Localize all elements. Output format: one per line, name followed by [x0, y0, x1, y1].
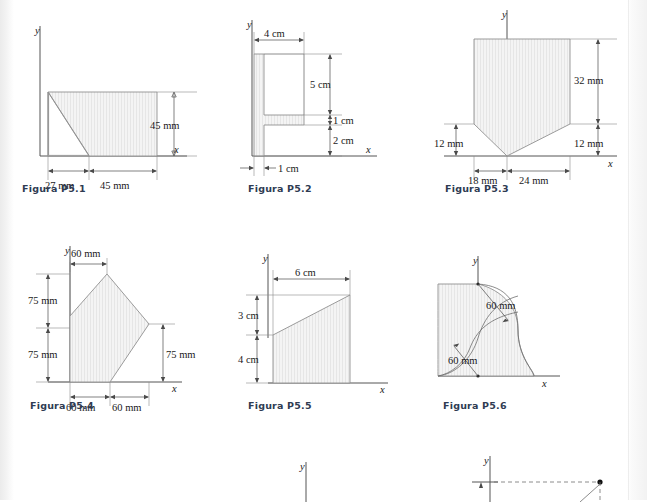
dim-arrow-down: [479, 482, 483, 488]
axis-y-label: y: [483, 455, 489, 466]
arrow-60tb: [102, 262, 107, 266]
arrow-2b: [328, 151, 332, 156]
arrow-60bla: [70, 395, 75, 399]
arrow-6b: [345, 277, 350, 281]
dim-60br-label: 60 mm: [112, 402, 141, 413]
dim-1cm-label: 1 cm: [333, 115, 354, 126]
caption-p5-6: Figura P5.6: [443, 400, 507, 411]
arrow-24b: [565, 169, 570, 173]
arrow-4b2: [255, 378, 259, 383]
axis-x-label: x: [171, 383, 177, 394]
arrow-24a: [507, 169, 512, 173]
dim-32-label: 32 mm: [574, 75, 603, 86]
caption-p5-1: Figura P5.1: [22, 183, 86, 194]
arrow-75ab: [46, 323, 50, 328]
caption-p5-5: Figura P5.5: [248, 400, 312, 411]
arrow-4b: [299, 38, 304, 42]
caption-p5-4: Figura P5.4: [30, 400, 94, 411]
shape-body: [70, 274, 149, 382]
figure-p5-5: x y 6 cm 3 cm 4 cm: [240, 246, 420, 396]
dim-3cm-label: 3 cm: [238, 310, 259, 321]
arrow-75ba: [46, 328, 50, 333]
dim-right-label: 45 mm: [100, 180, 129, 191]
dim-5cm-label: 5 cm: [310, 79, 331, 90]
axis-y-label: y: [246, 19, 252, 30]
dim-60top-label: 60 mm: [71, 248, 100, 259]
dim-12l-label: 12 mm: [434, 138, 463, 149]
arrow-5b: [328, 110, 332, 115]
axis-y-label: y: [64, 245, 70, 256]
figure-p5-2: x y 4 cm 5 cm 1 cm 2 cm: [232, 14, 412, 179]
arrow-18b: [502, 169, 507, 173]
dim-75a-label: 75 mm: [28, 295, 57, 306]
arrow-4a: [254, 38, 259, 42]
axis-x-label: x: [541, 378, 547, 389]
arrow-4a2: [255, 335, 259, 340]
dim-height-label: 45 mm: [150, 120, 179, 131]
figure-p5-6: x y 60 mm 60 mm: [430, 246, 610, 396]
dim-24-label: 24 mm: [519, 175, 548, 186]
arrow-60bra: [110, 395, 115, 399]
dim-stem-label: 1 cm: [278, 163, 299, 174]
arrow-12rb: [596, 151, 600, 156]
arrow-32a: [596, 39, 600, 44]
arrow-s1: [249, 166, 254, 170]
dim-4cm-label: 4 cm: [238, 354, 259, 365]
axis-x-label: x: [379, 384, 385, 395]
arrow-75ra: [161, 324, 165, 329]
dim-upper-60-label: 60 mm: [486, 300, 515, 311]
arrow-18a: [474, 169, 479, 173]
axis-y-label: y: [501, 9, 507, 20]
dim-75r-label: 75 mm: [166, 349, 195, 360]
arrow-s2: [264, 166, 269, 170]
arrow-1b: [328, 121, 332, 125]
dim-2cm-label: 2 cm: [333, 135, 354, 146]
caption-p5-3: Figura P5.3: [445, 183, 509, 194]
dim-75b-label: 75 mm: [28, 349, 57, 360]
arrow-5a: [328, 54, 332, 59]
arrow-1a: [328, 115, 332, 119]
dim-6cm-label: 6 cm: [295, 267, 316, 278]
arrow-32b: [596, 119, 600, 124]
axis-x-label: x: [365, 144, 371, 155]
arrow-60blb: [105, 395, 110, 399]
arrow-l2: [84, 169, 89, 173]
arrow-r2: [152, 169, 157, 173]
figure-p5-8-partial: y: [468, 452, 638, 502]
caption-p5-2: Figura P5.2: [248, 183, 312, 194]
diagonal-leader: [580, 485, 599, 502]
arrow-6a: [273, 277, 278, 281]
arrow-3b: [255, 330, 259, 335]
axis-x-label: x: [607, 158, 613, 169]
shape-body: [254, 54, 304, 156]
axis-y-label: y: [34, 25, 40, 36]
dim-4cm-label: 4 cm: [264, 28, 285, 39]
figure-p5-3: x y 32 mm 12 mm 12 mm 18 mm 24 mm: [432, 6, 632, 181]
arrow-12la: [454, 124, 458, 129]
page-gutter-left: [0, 0, 14, 500]
arrow-12ra: [596, 124, 600, 129]
axis-y-label: y: [262, 253, 268, 264]
figure-p5-7-partial: y: [288, 458, 368, 502]
shape-body: [474, 39, 570, 156]
axis-y-label: y: [299, 461, 305, 472]
arrow-12lb: [454, 151, 458, 156]
arrow-r1: [89, 169, 94, 173]
arrow-75rb: [161, 377, 165, 382]
shape-body: [273, 295, 350, 383]
dim-12r-label: 12 mm: [574, 138, 603, 149]
arrow-60ta: [70, 262, 75, 266]
axis-y-label: y: [472, 255, 478, 266]
arrow-3a: [255, 295, 259, 300]
figure-p5-1: x y 45 mm 27 mm 45 mm: [22, 14, 212, 174]
arrow-60brb: [144, 395, 149, 399]
arrow-75bb: [46, 377, 50, 382]
arrow-75aa: [46, 274, 50, 279]
dim-lower-60-label: 60 mm: [448, 355, 477, 366]
arrow-2a: [328, 125, 332, 130]
figure-p5-4: x y 60 mm 75 mm 75 mm 75 mm: [30, 236, 220, 401]
arrow-l1: [48, 169, 53, 173]
